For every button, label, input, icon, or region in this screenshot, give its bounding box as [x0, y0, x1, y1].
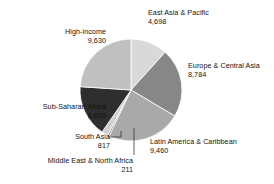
slice-label-europe-central-asia: Europe & Central Asia 8,784	[188, 62, 260, 79]
slice-label-east-asia-pacific: East Asia & Pacific 4,698	[148, 9, 209, 26]
slice-label-value: 9,630	[65, 37, 106, 46]
pie-chart-figure: East Asia & Pacific 4,698 Europe & Centr…	[0, 0, 274, 184]
slice-label-value: 4,698	[148, 18, 209, 27]
pie-slice-high-income	[80, 39, 131, 90]
pie-slice-group	[80, 39, 182, 141]
slice-label-value: 9,460	[150, 147, 237, 156]
slice-label-name: Middle East & North Africa	[48, 157, 133, 166]
slice-label-south-asia: South Asia 817	[75, 133, 110, 150]
slice-label-high-income: High-income 9,630	[65, 28, 106, 45]
slice-label-value: 8,784	[188, 71, 260, 80]
slice-label-sub-saharan-africa: Sub-Saharan Africa 6,605	[43, 103, 106, 120]
slice-label-middle-east-north-africa: Middle East & North Africa 211	[48, 157, 133, 174]
pie-chart-svg	[0, 0, 274, 184]
slice-label-latin-america-caribbean: Latin America & Caribbean 9,460	[150, 138, 237, 155]
slice-label-value: 817	[75, 142, 110, 151]
slice-label-value: 6,605	[43, 112, 106, 121]
slice-label-value: 211	[48, 166, 133, 175]
